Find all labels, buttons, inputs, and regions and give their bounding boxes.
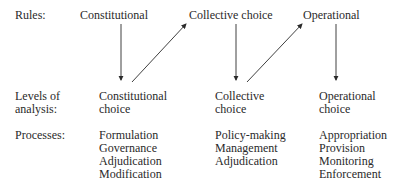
arrow-to-collective [132, 24, 186, 82]
level-operational-2: choice [319, 103, 350, 116]
row-label-levels-2: analysis: [15, 103, 57, 116]
level-constitutional-2: choice [99, 103, 130, 116]
process-item: Modification [99, 168, 162, 181]
row-label-rules: Rules: [15, 9, 46, 22]
process-item: Enforcement [319, 168, 381, 181]
process-item: Adjudication [215, 155, 278, 168]
level-collective-2: choice [215, 103, 246, 116]
row-label-processes: Processes: [15, 129, 65, 142]
rule-constitutional: Constitutional [80, 9, 148, 22]
arrow-to-operational [247, 24, 302, 82]
rule-collective-choice: Collective choice [189, 9, 273, 22]
rule-operational: Operational [303, 9, 360, 22]
